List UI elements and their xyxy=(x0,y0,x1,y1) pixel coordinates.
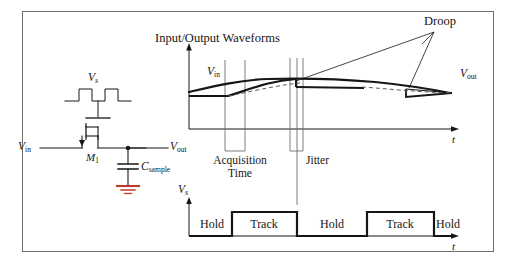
droop-leader-short xyxy=(409,32,434,88)
clock-label-vs: Vs xyxy=(88,72,98,84)
bottom-chart-axis-label-vs: Vs xyxy=(178,184,188,196)
jitter-label: Jitter xyxy=(306,155,329,167)
phase-label-track-2: Track xyxy=(381,218,419,230)
top-chart-vin-label: Vin xyxy=(207,66,220,78)
capacitor-csample xyxy=(118,148,138,186)
waveform-vout xyxy=(189,79,452,97)
ground-symbol xyxy=(117,186,139,194)
acquisition-time-label-line1: Acquisition xyxy=(205,155,275,167)
transistor-label-m1: M1 xyxy=(86,152,99,163)
phase-label-hold-3: Hold xyxy=(429,218,467,230)
figure-root: Vs Vin Vout M1 Csample Input/Output Wave… xyxy=(0,0,517,266)
capacitor-label-csample: Csample xyxy=(141,161,170,173)
phase-label-hold-1: Hold xyxy=(193,218,231,230)
bottom-chart-x-arrowhead xyxy=(451,233,459,238)
phase-label-hold-2: Hold xyxy=(313,218,351,230)
top-chart-vout-label: Vout xyxy=(460,68,477,80)
bottom-chart-time-axis-label: t xyxy=(452,241,455,252)
droop-leader-long xyxy=(296,32,434,81)
top-chart-time-axis-label: t xyxy=(452,134,455,145)
acquisition-time-label-line2: Time xyxy=(205,168,275,180)
bottom-chart-y-arrowhead xyxy=(186,197,192,204)
clock-waveform-vs xyxy=(65,89,131,101)
circuit-input-label-vin: Vin xyxy=(18,141,31,153)
top-chart-x-arrowhead xyxy=(451,126,459,131)
top-chart-title: Input/Output Waveforms xyxy=(155,32,280,45)
circuit-schematic xyxy=(40,89,168,194)
circuit-output-label-vout: Vout xyxy=(170,141,187,153)
vout-hold-2 xyxy=(296,87,364,88)
phase-label-track-1: Track xyxy=(245,218,283,230)
droop-annotation-label: Droop xyxy=(424,15,456,28)
mosfet-m1 xyxy=(79,118,110,148)
